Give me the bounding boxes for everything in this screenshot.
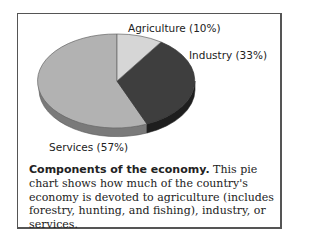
label-services: Services (57%): [49, 141, 128, 153]
label-agriculture: Agriculture (10%): [128, 22, 221, 34]
figure-caption: Components of the economy. This pie char…: [29, 163, 279, 232]
label-industry: Industry (33%): [189, 49, 267, 61]
caption-title: Components of the economy.: [29, 163, 210, 176]
